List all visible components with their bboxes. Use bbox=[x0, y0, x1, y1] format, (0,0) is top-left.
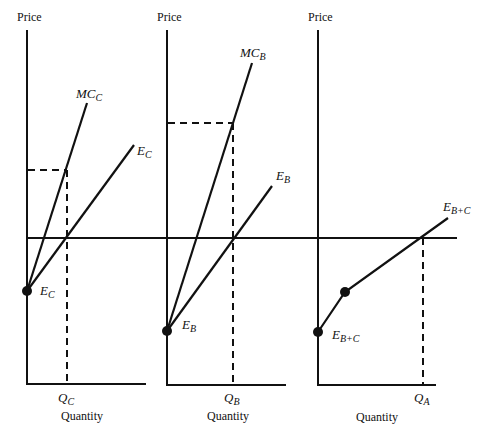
panel-b-q-label: QB bbox=[224, 390, 240, 407]
panel-c-mc-curve bbox=[27, 103, 87, 291]
panel-b-mc-label: MCB bbox=[239, 45, 266, 62]
panel-b-e-label: EB bbox=[275, 168, 290, 185]
panel-b-quantity-label: Quantity bbox=[207, 409, 249, 423]
panel-b-origin-dot bbox=[162, 326, 172, 336]
panel-b-e-curve bbox=[167, 186, 272, 331]
panel-a-price-label: Price bbox=[308, 10, 333, 24]
panel-c-e-label: EC bbox=[136, 143, 152, 160]
panel-b-point-label: EB bbox=[181, 317, 196, 334]
panel-a: Price EB+C EB+C QA Quantity bbox=[308, 10, 471, 424]
panel-c: Price MCC EC EC QC Quantity bbox=[17, 10, 152, 423]
three-panel-diagram: Price MCC EC EC QC Quantity Price MCB EB… bbox=[0, 0, 489, 439]
panel-a-point-label: EB+C bbox=[331, 327, 360, 344]
panel-a-aggregate-curve bbox=[318, 218, 448, 332]
panel-c-e-curve bbox=[27, 145, 134, 291]
panel-a-quantity-label: Quantity bbox=[356, 410, 398, 424]
panel-c-origin-dot bbox=[22, 286, 32, 296]
panel-c-point-label: EC bbox=[39, 283, 55, 300]
panel-a-origin-dot bbox=[313, 327, 323, 337]
panel-b-price-label: Price bbox=[157, 10, 182, 24]
panel-a-curve-label: EB+C bbox=[442, 199, 471, 216]
panel-b-mc-curve bbox=[167, 63, 252, 331]
panel-a-kink-dot bbox=[340, 287, 350, 297]
panel-b: Price MCB EB EB QB Quantity bbox=[157, 10, 290, 423]
panel-c-price-label: Price bbox=[17, 10, 42, 24]
panel-a-q-label: QA bbox=[414, 390, 430, 407]
panel-c-quantity-label: Quantity bbox=[61, 409, 103, 423]
panel-c-q-label: QC bbox=[58, 390, 74, 407]
panel-c-mc-label: MCC bbox=[75, 86, 103, 103]
